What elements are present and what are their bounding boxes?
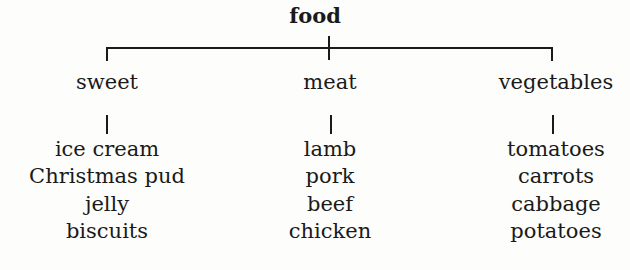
list-item: jelly: [0, 191, 217, 218]
category-items: ice cream Christmas pud jelly biscuits: [0, 136, 217, 245]
list-item: pork: [220, 163, 440, 190]
category-label: vegetables: [446, 70, 630, 94]
category-label: meat: [220, 70, 440, 94]
vegetables-drop-connector: [551, 47, 553, 61]
list-item: beef: [220, 191, 440, 218]
root-vertical-connector: [328, 36, 330, 60]
list-item: potatoes: [446, 218, 630, 245]
root-node: food: [0, 3, 630, 28]
list-item: ice cream: [0, 136, 217, 163]
list-item: carrots: [446, 163, 630, 190]
sweet-items-connector: [106, 115, 108, 134]
list-item: cabbage: [446, 191, 630, 218]
sweet-drop-connector: [106, 47, 108, 61]
vegetables-items-connector: [552, 115, 554, 134]
list-item: lamb: [220, 136, 440, 163]
category-items: lamb pork beef chicken: [220, 136, 440, 245]
list-item: biscuits: [0, 218, 217, 245]
category-label: sweet: [0, 70, 217, 94]
meat-items-connector: [330, 115, 332, 134]
list-item: chicken: [220, 218, 440, 245]
category-items: tomatoes carrots cabbage potatoes: [446, 136, 630, 245]
list-item: tomatoes: [446, 136, 630, 163]
list-item: Christmas pud: [0, 163, 217, 190]
